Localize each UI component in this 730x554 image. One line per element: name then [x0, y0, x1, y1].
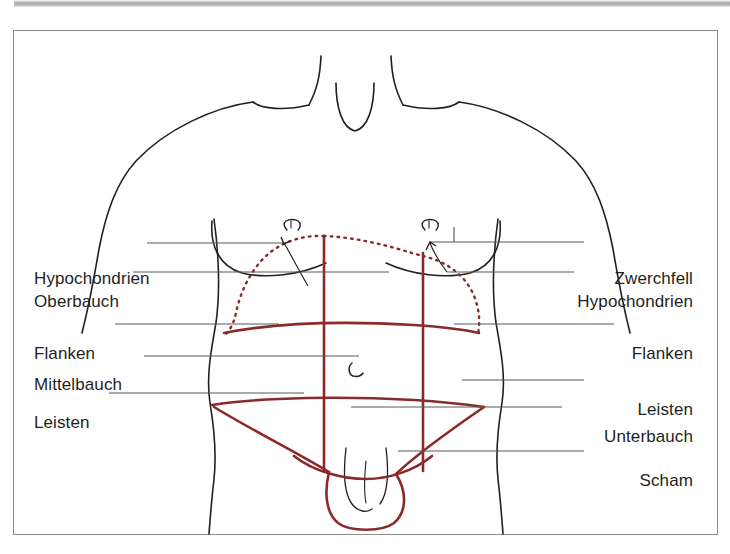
- nipple-left-icon: [284, 220, 300, 231]
- diaphragm-dotted-line: [226, 236, 479, 334]
- label-scham: Scham: [640, 471, 693, 491]
- sternal-notch: [336, 83, 374, 131]
- clavicle-left: [253, 102, 309, 109]
- figure-frame: Hypochondrien Oberbauch Flanken Mittelba…: [13, 30, 718, 535]
- nipple-right-icon: [422, 220, 438, 231]
- label-leisten-right: Leisten: [637, 400, 693, 420]
- leader-lines-group: [109, 227, 614, 451]
- label-oberbauch: Oberbauch: [34, 292, 119, 312]
- label-leisten-left: Leisten: [34, 413, 90, 433]
- breast-left: [212, 221, 326, 276]
- label-unterbauch: Unterbauch: [604, 427, 693, 447]
- inguinal-line-right: [396, 407, 484, 474]
- genital-midline: [365, 461, 367, 503]
- diaphragm-arc-left: [226, 236, 324, 334]
- navel-icon: [349, 363, 363, 376]
- label-zwerchfell: Zwerchfell: [615, 269, 693, 289]
- top-gray-bar: [0, 0, 730, 7]
- leader-right-hypochondrien-hook: [430, 243, 447, 272]
- clavicle-right: [403, 102, 459, 109]
- neck-left-line: [309, 56, 321, 105]
- torso-side-left: [209, 219, 219, 534]
- body-outline-group: [82, 56, 630, 534]
- top-bar-left-gap: [0, 0, 14, 7]
- leader-left-hypochondrien-hook: [284, 243, 308, 286]
- label-mittelbauch: Mittelbauch: [34, 375, 122, 395]
- neck-right-line: [391, 56, 403, 105]
- inguinal-line-left: [214, 407, 329, 472]
- torso-side-right: [493, 219, 503, 534]
- label-hypochondrien-right: Hypochondrien: [577, 292, 693, 312]
- label-flanken-left: Flanken: [34, 344, 95, 364]
- intertubercular-line: [212, 398, 484, 407]
- region-lines-group: [212, 237, 484, 530]
- diaphragm-arc-right: [423, 256, 479, 334]
- label-hypochondrien-left: Hypochondrien: [34, 269, 150, 289]
- diaphragm-arc-top: [324, 236, 423, 256]
- label-flanken-right: Flanken: [632, 344, 693, 364]
